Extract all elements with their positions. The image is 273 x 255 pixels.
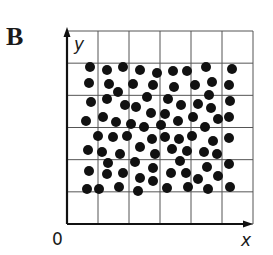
particle-dot [188, 112, 198, 122]
particle-dot [82, 184, 92, 194]
particle-dot [212, 149, 222, 159]
particle-dot [190, 80, 200, 90]
particle-dot [181, 168, 191, 178]
particle-dot [128, 79, 138, 89]
particle-dot [204, 90, 214, 100]
particle-dot [224, 159, 234, 169]
particle-dot [126, 119, 136, 129]
particle-dot [162, 183, 172, 193]
particle-dot [114, 182, 124, 192]
particle-dot [167, 144, 177, 154]
particle-dot [168, 66, 178, 76]
particle-dot [213, 114, 223, 124]
particle-dot [187, 131, 197, 141]
particle-dot [83, 145, 93, 155]
particle-dot [182, 66, 192, 76]
particle-dot [103, 158, 113, 168]
particle-dot [81, 116, 91, 126]
particle-dot [113, 87, 123, 97]
particle-dot [225, 96, 235, 106]
particle-dot [208, 136, 218, 146]
particle-dot [182, 146, 192, 156]
particle-dot [115, 149, 125, 159]
y-axis-label: y [73, 34, 85, 54]
particle-dot [166, 168, 176, 178]
particle-dot [94, 184, 104, 194]
particle-dot [148, 176, 158, 186]
dots-group [81, 62, 237, 196]
particle-dot [133, 186, 143, 196]
particle-dot [173, 116, 183, 126]
particle-dot [120, 100, 130, 110]
particle-dot [108, 132, 118, 142]
particle-dot [104, 79, 114, 89]
particle-dot [102, 65, 112, 75]
particle-dot [200, 122, 210, 132]
particle-dot [130, 157, 140, 167]
particle-dot [84, 78, 94, 88]
origin-label: 0 [52, 229, 63, 249]
scatter-grid-diagram: y x 0 [0, 0, 273, 255]
particle-dot [176, 100, 186, 110]
particle-dot [131, 102, 141, 112]
particle-dot [224, 112, 234, 122]
particle-dot [224, 133, 234, 143]
particle-dot [160, 109, 170, 119]
particle-dot [183, 182, 193, 192]
particle-dot [201, 62, 211, 72]
particle-dot [102, 94, 112, 104]
particle-dot [213, 171, 223, 181]
particle-dot [147, 134, 157, 144]
particle-dot [160, 132, 170, 142]
particle-dot [225, 182, 235, 192]
particle-dot [150, 149, 160, 159]
particle-dot [146, 108, 156, 118]
particle-dot [175, 156, 185, 166]
particle-dot [163, 94, 173, 104]
particle-dot [142, 92, 152, 102]
particle-dot [118, 168, 128, 178]
particle-dot [85, 62, 95, 72]
particle-dot [193, 174, 203, 184]
particle-dot [139, 122, 149, 132]
particle-dot [86, 97, 96, 107]
particle-dot [135, 142, 145, 152]
particle-dot [193, 99, 203, 109]
particle-dot [207, 77, 217, 87]
particle-dot [122, 131, 132, 141]
particle-dot [102, 169, 112, 179]
particle-dot [156, 120, 166, 130]
particle-dot [227, 64, 237, 74]
y-axis-arrow-icon [64, 27, 71, 37]
particle-dot [118, 62, 128, 72]
particle-dot [224, 80, 234, 90]
x-axis-arrow-icon [243, 221, 253, 228]
particle-dot [111, 117, 121, 127]
particle-dot [169, 82, 179, 92]
particle-dot [135, 173, 145, 183]
particle-dot [174, 134, 184, 144]
particle-dot [148, 80, 158, 90]
particle-dot [98, 112, 108, 122]
particle-dot [202, 162, 212, 172]
particle-dot [84, 166, 94, 176]
particle-dot [148, 163, 158, 173]
particle-dot [203, 184, 213, 194]
particle-dot [97, 147, 107, 157]
particle-dot [135, 65, 145, 75]
particle-dot [199, 147, 209, 157]
particle-dot [93, 131, 103, 141]
x-axis-label: x [240, 230, 252, 250]
particle-dot [152, 68, 162, 78]
particle-dot [206, 103, 216, 113]
